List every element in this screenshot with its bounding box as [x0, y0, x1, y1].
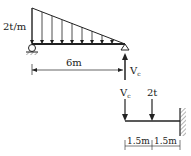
beam-diagram: 2t/m 6m Vc Vc 2t [0, 0, 191, 156]
dim-label-1: 1.5m [127, 136, 150, 146]
roller-support-icon [26, 45, 38, 56]
span-label: 6m [66, 57, 82, 68]
point-load-label: 2t [147, 87, 157, 98]
load-arrows [32, 8, 112, 43]
distributed-load-label: 2t/m [3, 21, 27, 32]
reaction-vc-arrow-icon [122, 53, 128, 80]
reaction-label-1: Vc [129, 65, 141, 77]
vc-down-arrow-icon [122, 99, 128, 121]
fixed-wall-icon [180, 108, 186, 136]
reaction-label-2: Vc [119, 87, 131, 99]
beam1-triangular-load [30, 8, 125, 44]
dim-label-2: 1.5m [154, 136, 177, 146]
point-load-arrow-icon [149, 99, 155, 121]
pin-support-icon [121, 44, 129, 50]
